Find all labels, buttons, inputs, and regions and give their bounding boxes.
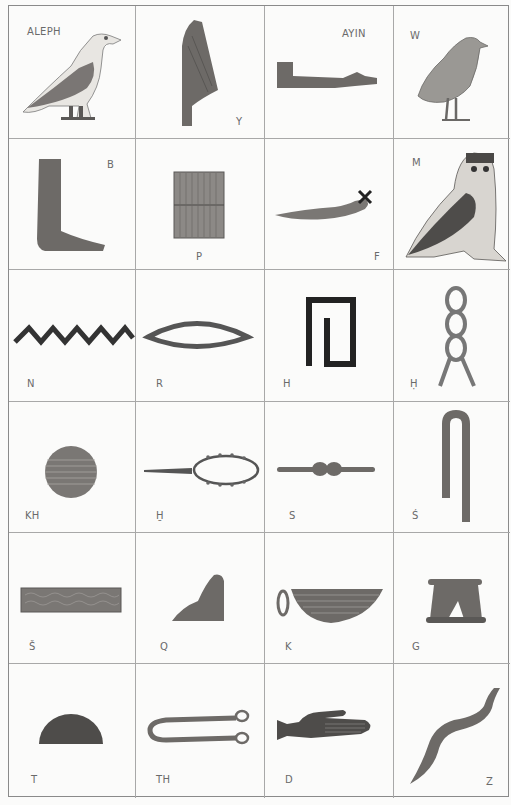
twisted-wick-icon	[394, 270, 510, 402]
glyph-cell-d: D	[265, 664, 394, 798]
door-bolt-icon	[265, 402, 394, 533]
hill-slope-icon	[136, 533, 265, 664]
glyph-cell-y: Y	[136, 6, 265, 139]
glyph-cell-k: K	[265, 533, 394, 664]
horned-viper-icon	[265, 139, 394, 270]
placenta-icon	[9, 402, 136, 533]
glyph-cell-h-dot: Ḥ	[394, 270, 510, 402]
glyph-cell-s: S	[265, 402, 394, 533]
glyph-cell-s-caron: Š	[9, 533, 136, 664]
glyph-cell-s-acute: Ś	[394, 402, 510, 533]
pool-icon	[9, 533, 136, 664]
glyph-cell-p: P	[136, 139, 265, 270]
glyph-cell-t: T	[9, 664, 136, 798]
stool-icon	[136, 139, 265, 270]
owl-icon	[394, 139, 510, 270]
glyph-cell-z: Z	[394, 664, 510, 798]
glyph-cell-f: F	[265, 139, 394, 270]
forearm-icon	[265, 6, 394, 139]
foot-icon	[9, 139, 136, 270]
glyph-cell-r: R	[136, 270, 265, 402]
glyph-cell-w: W	[394, 6, 510, 139]
glyph-cell-aleph: ALEPH	[9, 6, 136, 139]
glyph-cell-n: N	[9, 270, 136, 402]
basket-icon	[265, 533, 394, 664]
reed-shelter-icon	[265, 270, 394, 402]
glyph-cell-m: M	[394, 139, 510, 270]
mouth-icon	[136, 270, 265, 402]
glyph-cell-h-underline: H̱	[136, 402, 265, 533]
water-icon	[9, 270, 136, 402]
glyph-cell-b: B	[9, 139, 136, 270]
glyph-cell-ayin: AYIN	[265, 6, 394, 139]
glyph-cell-q: Q	[136, 533, 265, 664]
hieroglyph-grid: ALEPH Y AYIN W B	[8, 5, 509, 797]
glyph-cell-g: G	[394, 533, 510, 664]
folded-cloth-icon	[394, 402, 510, 533]
glyph-cell-h: H	[265, 270, 394, 402]
reed-leaf-icon	[136, 6, 265, 139]
quail-chick-icon	[394, 6, 510, 139]
jar-stand-icon	[394, 533, 510, 664]
hand-icon	[265, 664, 394, 798]
vulture-icon	[9, 6, 136, 139]
tethering-rope-icon	[136, 664, 265, 798]
animal-belly-icon	[136, 402, 265, 533]
cobra-icon	[394, 664, 510, 798]
glyph-cell-th: TH	[136, 664, 265, 798]
glyph-cell-kh: KH	[9, 402, 136, 533]
bread-loaf-icon	[9, 664, 136, 798]
